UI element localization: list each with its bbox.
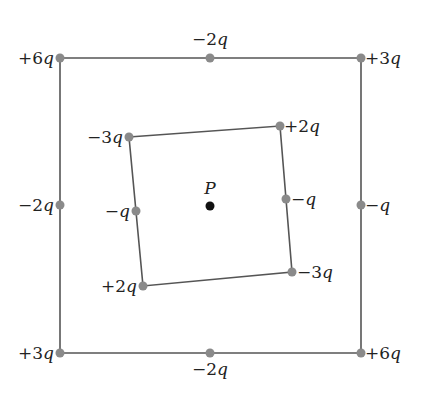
charge-label: +2q: [101, 276, 137, 296]
charge-dot: [206, 54, 215, 63]
charge-dot: [56, 201, 65, 210]
charge-label: +6q: [365, 343, 401, 363]
charge-label: +3q: [365, 48, 401, 68]
charge-label: +6q: [18, 48, 54, 68]
charge-inner-bottom-right: −3q: [288, 262, 334, 282]
point-p-label: P: [203, 178, 216, 198]
charge-dot: [56, 54, 65, 63]
charge-outer-bottom-left: +3q: [18, 343, 64, 363]
point-p: P: [203, 178, 216, 211]
charge-dot: [132, 207, 141, 216]
charge-dot: [288, 268, 297, 277]
charge-label: +3q: [18, 343, 54, 363]
charge-outer-left-mid: −2q: [18, 195, 64, 215]
charge-label: −3q: [297, 262, 333, 282]
charge-label: −q: [291, 189, 316, 209]
charge-outer-top-left: +6q: [18, 48, 64, 68]
charge-diagram: +6q−2q+3q−2q−q+3q−2q+6q−3q+2q−q−q−3q+2q …: [0, 0, 421, 396]
charge-dot: [139, 282, 148, 291]
charge-outer-bottom-right: +6q: [357, 343, 402, 363]
charge-label: −3q: [87, 127, 123, 147]
charge-label: +2q: [284, 116, 320, 136]
charge-label: −q: [105, 201, 130, 221]
charge-dot: [282, 195, 291, 204]
charge-inner-bottom-left: +2q: [101, 276, 147, 296]
charge-label: −2q: [192, 359, 228, 379]
charge-inner-top-right: +2q: [276, 116, 321, 136]
charge-label: −2q: [18, 195, 54, 215]
charge-outer-top-right: +3q: [357, 48, 402, 68]
point-p-dot: [206, 202, 215, 211]
charge-inner-top-left: −3q: [87, 127, 133, 147]
charge-dot: [206, 349, 215, 358]
charge-dot: [56, 349, 65, 358]
diagram-canvas: +6q−2q+3q−2q−q+3q−2q+6q−3q+2q−q−q−3q+2q …: [0, 0, 421, 396]
charge-label: −2q: [192, 29, 228, 49]
charge-label: −q: [365, 195, 390, 215]
charge-dot: [125, 133, 134, 142]
